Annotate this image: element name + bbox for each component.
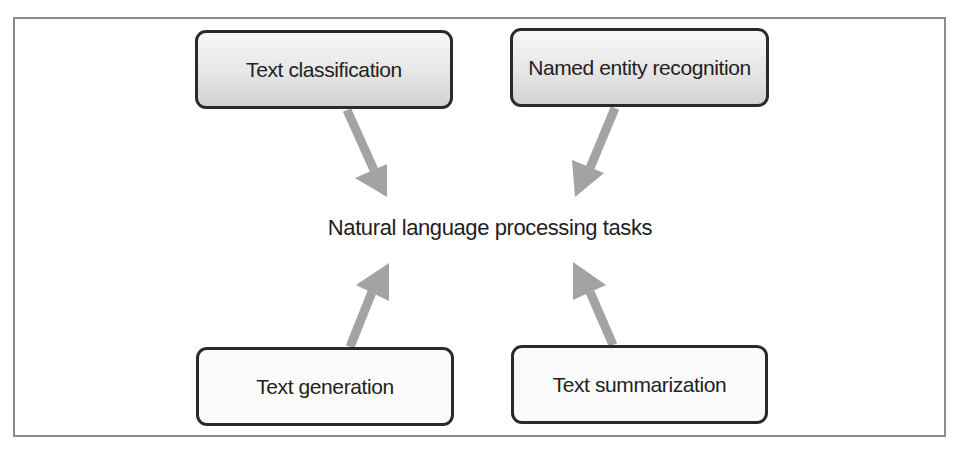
arrow-text-summarization-to-center — [573, 262, 613, 345]
node-label: Text summarization — [553, 373, 727, 397]
center-label: Natural language processing tasks — [300, 215, 680, 241]
node-text-classification: Text classification — [195, 30, 453, 109]
arrow-named-entity-recognition-to-center — [572, 108, 615, 197]
node-label: Text classification — [246, 58, 402, 82]
node-text-summarization: Text summarization — [511, 345, 768, 424]
node-text-generation: Text generation — [196, 347, 454, 426]
node-named-entity-recognition: Named entity recognition — [510, 28, 769, 107]
node-label: Text generation — [256, 375, 394, 399]
node-label: Named entity recognition — [528, 56, 751, 80]
arrow-text-generation-to-center — [350, 263, 389, 347]
arrow-text-classification-to-center — [347, 110, 387, 197]
